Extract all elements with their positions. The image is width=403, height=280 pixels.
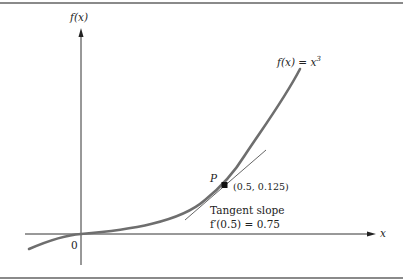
tangent-label-line1: Tangent slope: [210, 205, 284, 216]
y-axis-arrow-icon: [79, 28, 84, 37]
origin-label: 0: [71, 240, 78, 251]
point-name-label: P: [210, 173, 217, 184]
figure: f(x) x 0 f(x) = x3 P (0.5, 0.125) Tangen…: [0, 0, 403, 280]
curve-label: f(x) = x3: [277, 56, 321, 68]
plot-area: [0, 0, 403, 280]
curve-label-exponent: 3: [316, 55, 320, 63]
x-axis-arrow-icon: [367, 232, 376, 237]
point-p-marker: [222, 182, 228, 188]
x-axis-label: x: [380, 228, 386, 239]
curve-label-text: f(x) = x: [277, 56, 316, 68]
point-coords-label: (0.5, 0.125): [233, 182, 289, 192]
y-axis-label: f(x): [70, 12, 88, 23]
tangent-label-line2: f′(0.5) = 0.75: [210, 219, 280, 230]
